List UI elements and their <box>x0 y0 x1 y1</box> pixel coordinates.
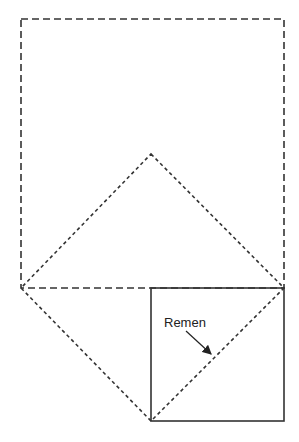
strap-label: Remen <box>164 315 206 330</box>
diagram-canvas: Remen <box>0 0 299 442</box>
strap-arrow <box>186 331 211 354</box>
